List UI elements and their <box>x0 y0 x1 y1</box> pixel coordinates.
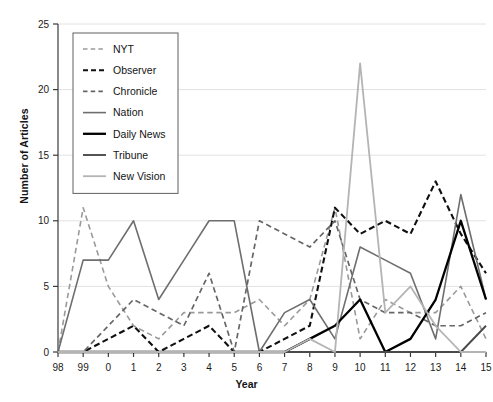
x-tick-label: 3 <box>181 362 187 373</box>
x-tick-label: 9 <box>332 362 338 373</box>
x-tick-label: 14 <box>455 362 467 373</box>
legend-label: Nation <box>113 106 144 118</box>
chart-legend: NYTObserverChronicleNationDaily NewsTrib… <box>73 33 178 193</box>
x-tick-label: 4 <box>206 362 212 373</box>
x-tick-label: 15 <box>480 362 492 373</box>
x-tick-label: 12 <box>405 362 417 373</box>
x-tick-label: 11 <box>380 362 391 373</box>
x-tick-label: 7 <box>282 362 288 373</box>
x-tick-label: 0 <box>106 362 112 373</box>
x-tick-label: 2 <box>156 362 162 373</box>
x-tick-label: 10 <box>355 362 367 373</box>
y-tick-label: 0 <box>43 347 49 358</box>
x-tick-label: 98 <box>52 362 64 373</box>
line-chart-plot: 0510152025 98990123456789101112131415 NY… <box>0 0 493 402</box>
x-axis-ticks: 98990123456789101112131415 <box>52 352 492 373</box>
chart-figure: Number of Articles Year 0510152025 98990… <box>0 0 493 402</box>
x-tick-label: 8 <box>307 362 313 373</box>
series-line-nyt <box>58 208 486 352</box>
legend-label: Tribune <box>113 149 148 161</box>
y-tick-label: 20 <box>38 84 50 95</box>
y-axis-ticks: 0510152025 <box>38 19 58 358</box>
legend-label: Observer <box>113 64 157 76</box>
x-tick-label: 99 <box>78 362 90 373</box>
series-line-observer <box>58 181 486 352</box>
y-tick-label: 10 <box>38 215 50 226</box>
series-line-tribune <box>58 326 486 352</box>
x-tick-label: 6 <box>257 362 263 373</box>
legend-label: Daily News <box>113 128 166 140</box>
y-tick-label: 5 <box>43 281 49 292</box>
legend-label: New Vision <box>113 170 165 182</box>
legend-label: Chronicle <box>113 85 158 97</box>
x-tick-label: 1 <box>131 362 137 373</box>
y-tick-label: 25 <box>38 19 50 30</box>
y-tick-label: 15 <box>38 150 50 161</box>
x-tick-label: 13 <box>430 362 442 373</box>
x-tick-label: 5 <box>231 362 237 373</box>
series-line-nation <box>58 195 486 352</box>
legend-label: NYT <box>113 43 135 55</box>
